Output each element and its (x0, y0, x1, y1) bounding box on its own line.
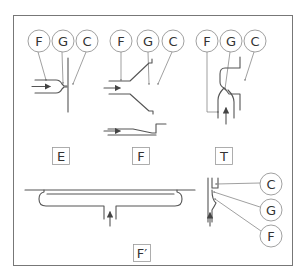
panel-e: F G C (28, 30, 98, 112)
svg-text:C: C (168, 34, 177, 49)
callout-f-e: F (28, 30, 50, 52)
svg-text:G: G (143, 34, 153, 49)
callout-f-t: F (196, 30, 218, 52)
panel-f: F G C (104, 30, 184, 135)
callout-g-side: G (260, 199, 282, 221)
diagram-frame (14, 16, 293, 266)
svg-text:G: G (266, 203, 276, 218)
callout-g-t: G (220, 30, 242, 52)
callout-c-f: C (162, 30, 184, 52)
label-box-t: T (216, 148, 233, 165)
callout-f-f: F (110, 30, 132, 52)
svg-text:C: C (250, 34, 259, 49)
svg-text:F: F (137, 149, 144, 164)
svg-text:F′: F′ (137, 246, 147, 261)
svg-text:F: F (35, 34, 42, 49)
svg-text:E: E (57, 149, 65, 164)
svg-text:G: G (58, 34, 68, 49)
svg-text:C: C (266, 177, 275, 192)
callout-c-t: C (244, 30, 266, 52)
callout-c-side: C (260, 173, 282, 195)
svg-text:F: F (203, 34, 210, 49)
panel-t: F G C (196, 30, 266, 124)
svg-text:C: C (82, 34, 91, 49)
panel-f-prime (25, 190, 195, 226)
svg-text:F: F (267, 229, 274, 244)
svg-text:T: T (219, 149, 228, 164)
label-box-e: E (53, 148, 70, 165)
callout-f-side: F (260, 225, 282, 247)
callout-g-f: G (137, 30, 159, 52)
svg-text:G: G (226, 34, 236, 49)
callout-g-e: G (52, 30, 74, 52)
callout-c-e: C (76, 30, 98, 52)
label-box-f-prime: F′ (134, 245, 151, 262)
panel-f-prime-side: C G F (208, 173, 282, 247)
svg-text:F: F (117, 34, 124, 49)
nozzle-diagram: F G C F G C (0, 0, 306, 274)
label-box-f: F (133, 148, 150, 165)
